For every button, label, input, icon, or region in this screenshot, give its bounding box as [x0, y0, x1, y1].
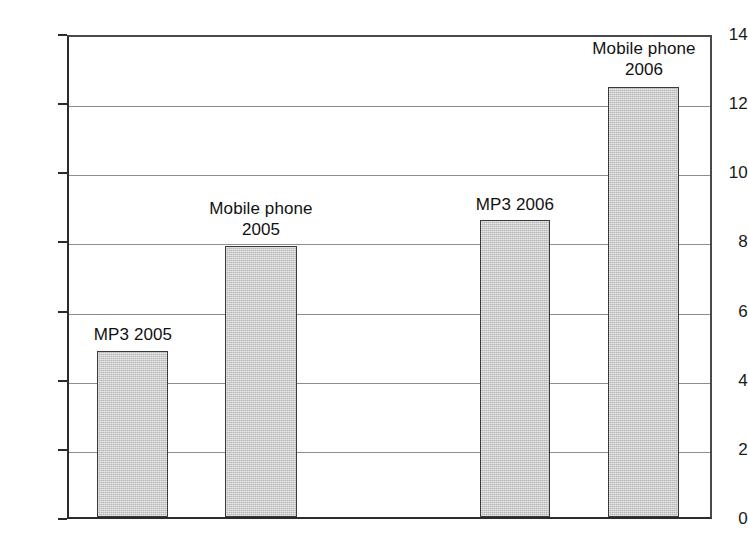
- bar-label-3: MP3 2006: [468, 194, 562, 215]
- bar-label-1: MP3 2005: [86, 324, 180, 345]
- y-axis-tick-mark: [58, 380, 67, 382]
- bar-4: [608, 87, 679, 517]
- bar-3: [480, 220, 550, 517]
- bar-2: [225, 246, 297, 517]
- y-axis-tick-mark: [58, 311, 67, 313]
- bar-label-4: Mobile phone 2006: [574, 38, 714, 80]
- y-axis-tick-mark: [58, 449, 67, 451]
- bar-1: [97, 351, 168, 517]
- bar-chart: 02468101214 MP3 2005Mobile phone 2005MP3…: [0, 0, 748, 547]
- y-axis-tick-mark: [58, 103, 67, 105]
- y-axis-tick-mark: [58, 34, 67, 36]
- y-axis-tick-mark: [58, 241, 67, 243]
- y-axis-tick-mark: [58, 172, 67, 174]
- plot-area: [67, 35, 712, 519]
- y-axis-tick-mark: [58, 518, 67, 520]
- bar-label-2: Mobile phone 2005: [190, 198, 332, 240]
